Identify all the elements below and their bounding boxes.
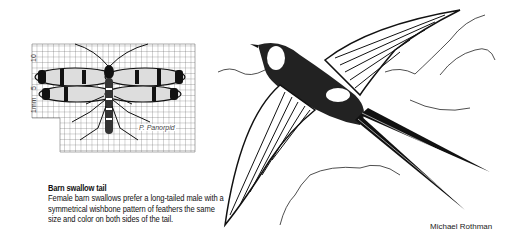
scale-label-5: 5 bbox=[30, 86, 37, 90]
scale-label-10: 10 bbox=[30, 54, 37, 62]
scale-label-1mm: 1mm bbox=[30, 97, 37, 113]
scorpionfly-grid-illustration bbox=[20, 40, 210, 165]
caption-body: Female barn swallows prefer a long-taile… bbox=[48, 193, 224, 225]
barn-swallow-illustration bbox=[210, 0, 526, 250]
illustrator-credit: Michael Rothman bbox=[430, 222, 492, 231]
figure-caption: Barn swallow tail Female barn swallows p… bbox=[48, 183, 228, 225]
caption-title: Barn swallow tail bbox=[48, 183, 206, 193]
species-label: P. Panorpid bbox=[138, 124, 176, 131]
